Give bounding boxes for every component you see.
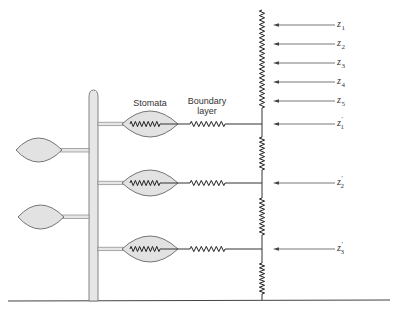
level-label: z3 <box>336 56 345 70</box>
level-subscript: 4 <box>341 81 345 89</box>
atmospheric-resistor <box>259 137 264 170</box>
level-z1: z1 <box>273 18 345 32</box>
boundary-layer-resistor <box>190 121 225 126</box>
petiole <box>60 149 89 153</box>
level-label: z5 <box>336 94 345 108</box>
leaf-blade <box>18 205 64 229</box>
petiole <box>98 181 124 185</box>
atmospheric-resistor <box>259 263 264 294</box>
petiole <box>98 122 124 126</box>
boundary-layer-label-line2: layer <box>197 106 217 116</box>
branches <box>98 111 262 262</box>
level-symbol: z <box>336 94 341 105</box>
level-z2: z2 <box>273 37 345 51</box>
level-subscript: 3 <box>340 248 344 256</box>
left-leaf-lower <box>18 205 89 229</box>
branch-2 <box>98 170 262 196</box>
leaf-blade <box>16 138 62 162</box>
level-label: z′3 <box>336 240 344 256</box>
level-z4: z4 <box>273 75 345 89</box>
arrow-head-icon <box>273 61 279 65</box>
ground-line <box>8 300 390 301</box>
atmospheric-resistor <box>259 10 264 108</box>
resistance-network-diagram: z1z2z3z4z5z′1z′2z′3 Stomata Boundary lay… <box>0 0 400 314</box>
petiole <box>62 215 89 219</box>
level-z1p: z′1 <box>273 115 344 131</box>
petiole <box>98 247 124 251</box>
arrow-head-icon <box>273 181 279 185</box>
plant-stem <box>89 90 98 301</box>
atmospheric-resistor-chain <box>259 10 264 300</box>
level-label: z4 <box>336 75 345 89</box>
level-prime: ′ <box>341 174 343 182</box>
atmospheric-resistor <box>259 198 264 235</box>
boundary-layer-label-line1: Boundary <box>188 96 227 106</box>
level-symbol: z <box>336 75 341 86</box>
level-symbol: z <box>336 37 341 48</box>
level-subscript: 2 <box>340 182 344 190</box>
arrow-head-icon <box>273 247 279 251</box>
boundary-layer-resistor <box>190 180 225 185</box>
level-subscript: 5 <box>341 100 345 108</box>
level-label: z1 <box>336 18 345 32</box>
arrow-head-icon <box>273 122 279 126</box>
stomata-label: Stomata <box>133 98 167 108</box>
level-z3p: z′3 <box>273 240 344 256</box>
level-prime: ′ <box>341 115 343 123</box>
arrow-head-icon <box>273 80 279 84</box>
level-subscript: 1 <box>340 123 344 131</box>
arrow-head-icon <box>273 42 279 46</box>
level-z5: z5 <box>273 94 345 108</box>
level-z3: z3 <box>273 56 345 70</box>
level-label: z′2 <box>336 174 344 190</box>
height-levels: z1z2z3z4z5z′1z′2z′3 <box>273 18 345 256</box>
boundary-layer-resistor <box>190 246 225 251</box>
level-label: z′1 <box>336 115 344 131</box>
arrow-head-icon <box>273 23 279 27</box>
level-symbol: z <box>336 56 341 67</box>
branch-3 <box>98 236 262 262</box>
branch-1 <box>98 111 262 137</box>
level-symbol: z <box>336 18 341 29</box>
left-leaf-upper <box>16 138 89 162</box>
level-subscript: 1 <box>341 24 345 32</box>
level-subscript: 3 <box>341 62 345 70</box>
level-z2p: z′2 <box>273 174 344 190</box>
level-prime: ′ <box>341 240 343 248</box>
level-subscript: 2 <box>341 43 345 51</box>
level-label: z2 <box>336 37 345 51</box>
arrow-head-icon <box>273 99 279 103</box>
